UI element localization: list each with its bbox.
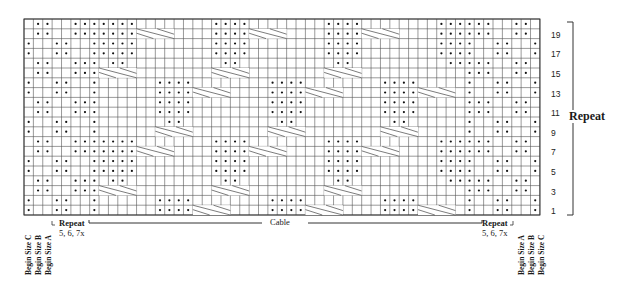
left-repeat-label: Repeat 5, 6, 7x (59, 218, 85, 238)
begin-size-a-right: Begin Size A (517, 235, 526, 275)
row-number-5: 5 (551, 167, 571, 177)
row-number-15: 15 (551, 69, 571, 79)
begin-size-b-right: Begin Size B (527, 235, 536, 275)
row-number-9: 9 (551, 128, 571, 138)
row-number-3: 3 (551, 187, 571, 197)
row-number-7: 7 (551, 147, 571, 157)
row-number-17: 17 (551, 49, 571, 59)
row-number-13: 13 (551, 89, 571, 99)
left-repeat-count: 5, 6, 7x (59, 228, 85, 238)
begin-size-c-right: Begin Size C (537, 235, 546, 275)
left-repeat-tick (52, 221, 55, 225)
row-number-11: 11 (551, 108, 571, 118)
row-number-1: 1 (551, 206, 571, 216)
row-number-19: 19 (551, 30, 571, 40)
left-repeat-title: Repeat (59, 218, 85, 228)
right-repeat-title: Repeat (482, 218, 508, 228)
cable-label: Cable (266, 217, 294, 227)
row-repeat-label: Repeat (569, 109, 605, 124)
right-repeat-tick (510, 221, 513, 225)
right-repeat-count: 5, 6, 7x (482, 228, 508, 238)
begin-size-c-left: Begin Size C (24, 235, 33, 275)
begin-size-b-left: Begin Size B (34, 235, 43, 275)
begin-size-a-left: Begin Size A (44, 235, 53, 275)
right-repeat-label: Repeat 5, 6, 7x (482, 218, 508, 238)
